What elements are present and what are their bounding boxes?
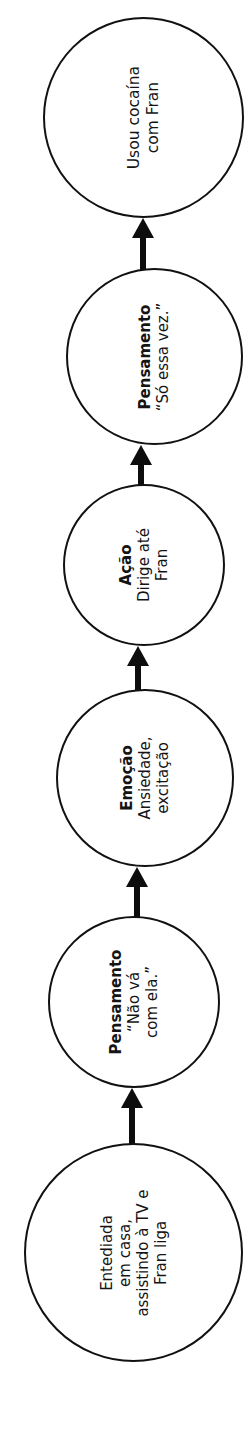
node-emotion-line-1: Ansiedade, bbox=[136, 736, 154, 819]
arrow-thought1-to-emotion bbox=[126, 867, 148, 918]
node-thought-2-line-1: “Só essa vez.” bbox=[154, 302, 172, 411]
arrow-shaft bbox=[138, 464, 144, 486]
node-emotion[interactable]: Emoção Ansiedade, excitação bbox=[56, 689, 234, 867]
arrow-head-icon bbox=[132, 218, 154, 238]
node-thought-2-title: Pensamento bbox=[136, 304, 154, 409]
node-thought-2[interactable]: Pensamento “Só essa vez.” bbox=[66, 268, 243, 445]
node-action-body: Dirige até Fran bbox=[135, 528, 171, 602]
arrow-shaft bbox=[140, 237, 146, 270]
arrow-shaft bbox=[135, 665, 141, 691]
node-thought-1-title: Pensamento bbox=[107, 950, 125, 1055]
node-trigger-line-2: em casa, bbox=[116, 1189, 134, 1316]
flowchart-diagram: Usou cocaína com Fran Pensamento “Só ess… bbox=[0, 0, 252, 1431]
node-thought-1-body: “Não vá com ela.” bbox=[125, 966, 161, 1038]
node-action-title: Ação bbox=[117, 545, 135, 586]
node-trigger-body: Entediada em casa, assistindo à TV e Fra… bbox=[98, 1189, 170, 1316]
node-emotion-line-2: excitação bbox=[154, 736, 172, 819]
arrow-head-icon bbox=[127, 646, 149, 666]
node-outcome[interactable]: Usou cocaína com Fran bbox=[43, 17, 244, 218]
arrow-shaft bbox=[134, 886, 140, 918]
node-thought-2-label: Pensamento “Só essa vez.” bbox=[136, 302, 172, 411]
node-outcome-line-1: Usou cocaína bbox=[125, 66, 144, 169]
arrow-trigger-to-thought1 bbox=[121, 1088, 143, 1145]
node-emotion-body: Ansiedade, excitação bbox=[136, 736, 172, 819]
node-trigger-line-1: Entediada bbox=[98, 1189, 116, 1316]
node-action-line-2: Fran bbox=[153, 528, 171, 602]
node-outcome-label: Usou cocaína com Fran bbox=[125, 66, 162, 169]
node-action[interactable]: Ação Dirige até Fran bbox=[63, 484, 225, 646]
node-emotion-title: Emoção bbox=[118, 745, 136, 811]
node-action-line-1: Dirige até bbox=[135, 528, 153, 602]
arrow-emotion-to-action bbox=[127, 646, 149, 691]
node-action-label: Ação Dirige até Fran bbox=[117, 528, 171, 602]
arrow-thought2-to-outcome bbox=[132, 218, 154, 270]
node-thought-1-line-2: com ela.” bbox=[143, 966, 161, 1038]
node-emotion-label: Emoção Ansiedade, excitação bbox=[118, 736, 172, 819]
node-trigger-label: Entediada em casa, assistindo à TV e Fra… bbox=[98, 1189, 170, 1316]
node-outcome-line-2: com Fran bbox=[144, 66, 163, 169]
node-thought-1-line-1: “Não vá bbox=[125, 966, 143, 1038]
node-trigger-line-4: Fran liga bbox=[152, 1189, 170, 1316]
arrow-head-icon bbox=[130, 445, 152, 465]
node-trigger-line-3: assistindo à TV e bbox=[134, 1189, 152, 1316]
arrow-head-icon bbox=[121, 1088, 143, 1108]
node-outcome-body: Usou cocaína com Fran bbox=[125, 66, 162, 169]
node-thought-2-body: “Só essa vez.” bbox=[154, 302, 172, 411]
node-trigger[interactable]: Entediada em casa, assistindo à TV e Fra… bbox=[24, 1143, 243, 1362]
arrow-head-icon bbox=[126, 867, 148, 887]
node-thought-1-label: Pensamento “Não vá com ela.” bbox=[107, 950, 161, 1055]
arrow-shaft bbox=[129, 1107, 135, 1145]
node-thought-1[interactable]: Pensamento “Não vá com ela.” bbox=[48, 916, 220, 1088]
arrow-action-to-thought2 bbox=[130, 445, 152, 486]
